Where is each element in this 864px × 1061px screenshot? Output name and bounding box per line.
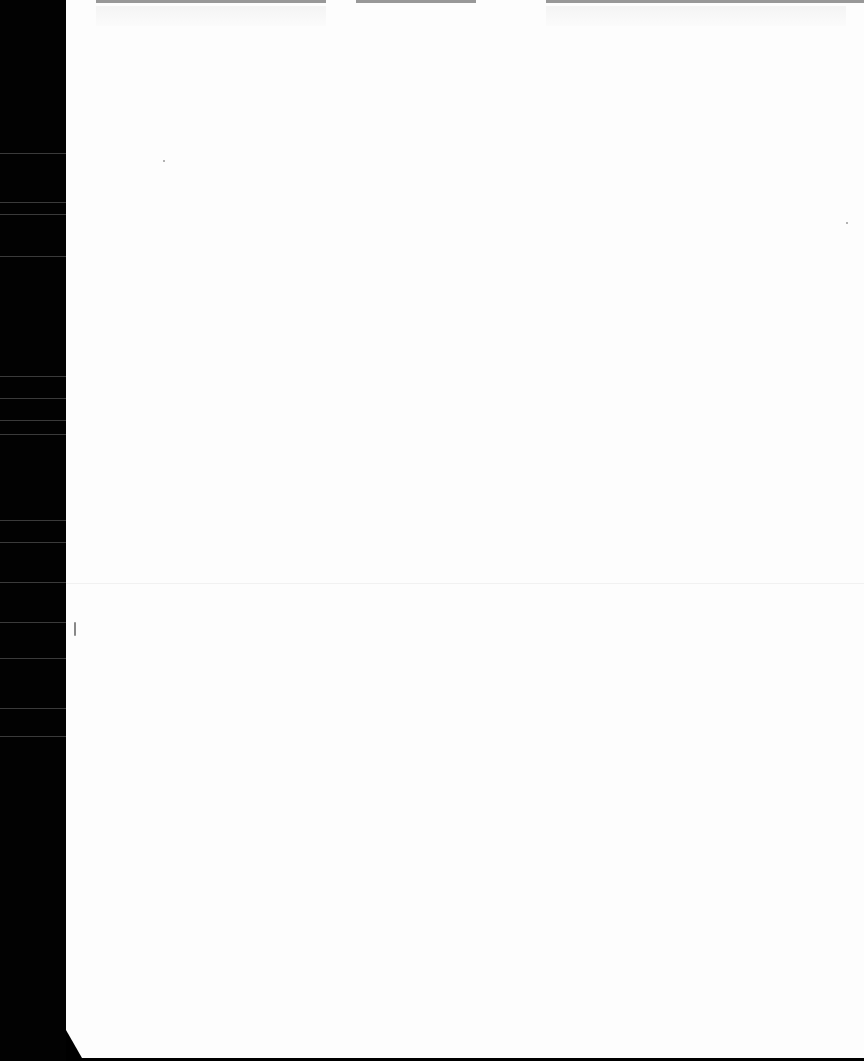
scan-speck bbox=[846, 222, 848, 224]
edge-streak bbox=[0, 434, 66, 435]
edge-streak bbox=[0, 582, 66, 583]
scan-speck bbox=[163, 160, 165, 162]
edge-streak bbox=[0, 658, 66, 659]
scanner-black-border bbox=[0, 0, 66, 1061]
edge-streak bbox=[0, 153, 66, 154]
edge-streak bbox=[0, 542, 66, 543]
top-edge-shadow bbox=[356, 0, 476, 3]
blank-page bbox=[66, 0, 864, 1058]
edge-streak bbox=[0, 256, 66, 257]
edge-streak bbox=[0, 736, 66, 737]
top-edge-shadow bbox=[96, 0, 326, 3]
bleed-through-text bbox=[546, 6, 846, 26]
fold-line bbox=[66, 583, 864, 584]
edge-streak bbox=[0, 398, 66, 399]
bleed-through-text bbox=[96, 6, 326, 26]
edge-streak bbox=[0, 214, 66, 215]
edge-streak bbox=[0, 622, 66, 623]
edge-streak bbox=[0, 520, 66, 521]
edge-streak bbox=[0, 708, 66, 709]
edge-streak bbox=[0, 420, 66, 421]
edge-streak bbox=[0, 202, 66, 203]
edge-streak bbox=[0, 376, 66, 377]
top-edge-shadow bbox=[546, 0, 864, 3]
scan-speck bbox=[74, 622, 76, 636]
